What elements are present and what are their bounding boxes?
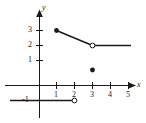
isolated-point-4 xyxy=(90,68,95,73)
piecewise-function-figure: 1 2 3 4 5 3 2 1 -1 x y xyxy=(0,0,146,123)
y-axis xyxy=(36,10,43,119)
open-point-4-2 xyxy=(90,43,95,48)
y-tick-label-1: 1 xyxy=(28,56,32,64)
y-tick-label-neg1: -1 xyxy=(22,96,29,104)
x-tick-label-5: 5 xyxy=(126,91,130,99)
x-axis xyxy=(5,82,136,89)
x-tick-label-4: 4 xyxy=(108,91,112,99)
x-tick-label-1: 1 xyxy=(54,91,58,99)
x-tick-label-2: 2 xyxy=(72,91,76,99)
y-tick-label-2: 2 xyxy=(28,41,32,49)
x-tick-label-3: 3 xyxy=(90,91,94,99)
y-tick-label-3: 3 xyxy=(28,26,32,34)
filled-point-2-3 xyxy=(54,28,59,33)
plot-canvas xyxy=(0,0,146,123)
x-axis-label: x xyxy=(137,81,141,89)
series-middle-segment xyxy=(57,31,93,46)
y-axis-label: y xyxy=(42,4,46,12)
